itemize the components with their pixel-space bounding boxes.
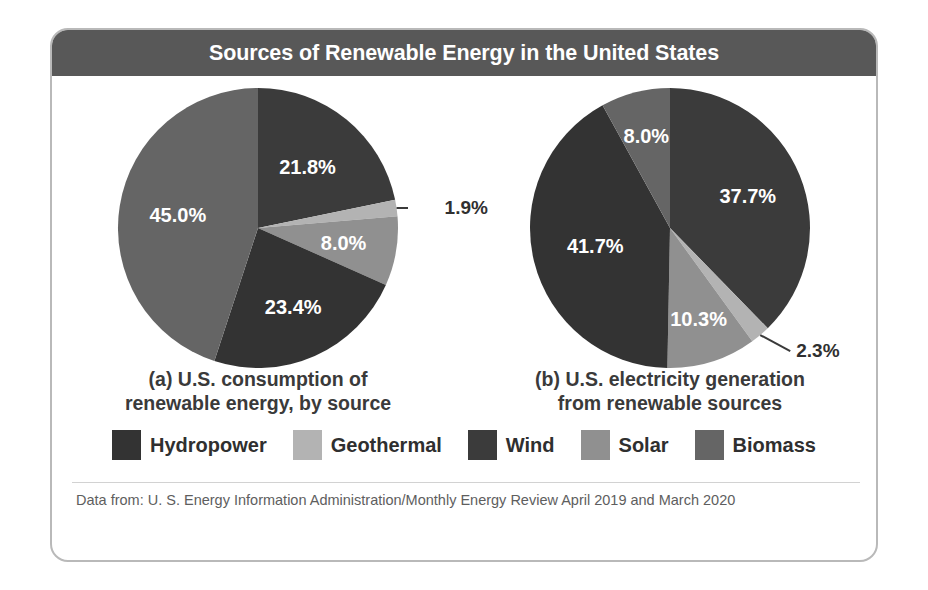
slice-label-geothermal-b: 2.3% <box>796 340 839 362</box>
chart-caption-b-line1: (b) U.S. electricity generation <box>505 368 835 392</box>
legend-swatch <box>581 430 610 460</box>
pie-chart-b: 37.7% 10.3% 41.7% 8.0% 2.3% <box>520 82 820 374</box>
legend-swatch <box>112 430 141 460</box>
legend-label: Wind <box>506 434 555 457</box>
legend-label: Geothermal <box>331 434 442 457</box>
pie-a-svg <box>108 82 408 374</box>
chart-legend: HydropowerGeothermalWindSolarBiomass <box>52 430 876 460</box>
figure-title-bar: Sources of Renewable Energy in the Unite… <box>52 30 876 76</box>
chart-caption-b: (b) U.S. electricity generation from ren… <box>505 368 835 416</box>
figure-card: Sources of Renewable Energy in the Unite… <box>50 28 878 562</box>
legend-label: Biomass <box>733 434 816 457</box>
footer-divider <box>72 482 860 483</box>
legend-item: Wind <box>468 430 555 460</box>
legend-swatch <box>293 430 322 460</box>
chart-caption-a-line1: (a) U.S. consumption of <box>93 368 423 392</box>
legend-swatch <box>468 430 497 460</box>
legend-item: Hydropower <box>112 430 267 460</box>
legend-item: Geothermal <box>293 430 442 460</box>
chart-caption-a: (a) U.S. consumption of renewable energy… <box>93 368 423 416</box>
legend-label: Solar <box>619 434 669 457</box>
chart-caption-a-line2: renewable energy, by source <box>93 392 423 416</box>
legend-swatch <box>695 430 724 460</box>
legend-item: Biomass <box>695 430 816 460</box>
pie-chart-a: 21.8% 8.0% 23.4% 45.0% 1.9% <box>108 82 408 374</box>
chart-caption-b-line2: from renewable sources <box>505 392 835 416</box>
leader-line-geothermal-b <box>760 335 790 351</box>
data-source-note: Data from: U. S. Energy Information Admi… <box>76 492 735 508</box>
charts-row: 21.8% 8.0% 23.4% 45.0% 1.9% (a) U.S. con… <box>52 80 876 410</box>
chart-block-a: 21.8% 8.0% 23.4% 45.0% 1.9% (a) U.S. con… <box>52 80 464 410</box>
figure-title: Sources of Renewable Energy in the Unite… <box>209 41 719 66</box>
legend-label: Hydropower <box>150 434 267 457</box>
chart-block-b: 37.7% 10.3% 41.7% 8.0% 2.3% (b) U.S. ele… <box>464 80 876 410</box>
pie-b-svg <box>520 82 820 374</box>
legend-item: Solar <box>581 430 669 460</box>
